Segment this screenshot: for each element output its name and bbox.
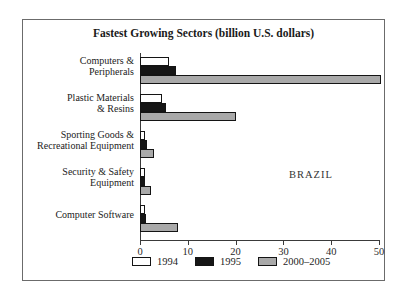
bar-2000-2005 [140, 223, 178, 232]
bar-1995 [140, 140, 147, 149]
bar-1994 [140, 168, 145, 177]
legend-item: 1995 [195, 256, 241, 267]
x-axis-line [140, 240, 380, 241]
bar-1995 [140, 66, 176, 75]
x-tick-label: 50 [364, 246, 394, 257]
category-label-line: Sporting Goods & [61, 129, 134, 140]
bar-1995 [140, 103, 166, 112]
category-label: Plastic Materials& Resins [23, 91, 134, 115]
category-label-line: & Resins [97, 103, 134, 114]
x-axis-tick [140, 240, 141, 245]
legend-label: 2000–2005 [283, 256, 330, 267]
bar-1994 [140, 94, 162, 103]
category-label: Computers &Peripherals [23, 54, 134, 78]
x-axis-tick [236, 240, 237, 245]
category-label-line: Equipment [90, 177, 134, 188]
bar-2000-2005 [140, 75, 381, 84]
chart-frame: Fastest Growing Sectors (billion U.S. do… [22, 19, 385, 281]
category-label-line: Peripherals [89, 66, 134, 77]
legend-item: 1994 [132, 256, 178, 267]
category-label-line: Security & Safety [62, 166, 134, 177]
legend-label: 1994 [157, 256, 178, 267]
bar-1994 [140, 57, 169, 66]
bar-2000-2005 [140, 112, 236, 121]
legend-label: 1995 [220, 256, 241, 267]
bar-1995 [140, 177, 145, 186]
category-label-line: Plastic Materials [67, 92, 134, 103]
legend: 199419952000–2005 [132, 256, 330, 267]
bar-1994 [140, 131, 145, 140]
country-label: BRAZIL [289, 169, 333, 180]
x-axis-tick [283, 240, 284, 245]
bar-2000-2005 [140, 186, 151, 195]
x-axis-tick [331, 240, 332, 245]
legend-swatch [258, 257, 277, 266]
category-label: Security & SafetyEquipment [23, 165, 134, 189]
category-label-line: Computer Software [55, 209, 134, 220]
bar-1995 [140, 214, 146, 223]
plot-area: 01020304050Computers &PeripheralsPlastic… [23, 20, 384, 280]
category-label-line: Recreational Equipment [37, 140, 134, 151]
bar-1994 [140, 205, 145, 214]
legend-item: 2000–2005 [258, 256, 330, 267]
category-label: Sporting Goods &Recreational Equipment [23, 128, 134, 152]
category-label-line: Computers & [80, 55, 134, 66]
category-label: Computer Software [23, 202, 134, 226]
x-axis-tick [188, 240, 189, 245]
bar-2000-2005 [140, 149, 154, 158]
legend-swatch [195, 257, 214, 266]
legend-swatch [132, 257, 151, 266]
x-axis-tick [379, 240, 380, 245]
